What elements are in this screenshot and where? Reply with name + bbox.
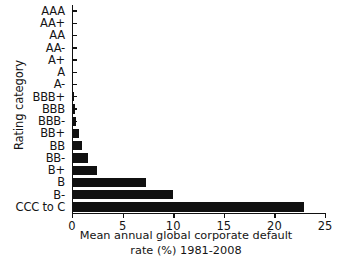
bar [73,166,97,175]
bar-row: CCC to C [72,201,325,213]
bar-row: B+ [72,164,325,176]
x-axis-line [72,213,325,214]
bar-row: A+ [72,54,325,66]
bar-row: AA+ [72,17,325,29]
y-tick-mark [72,47,77,48]
y-tick-mark [72,84,77,85]
bar-row: AAA [72,5,325,17]
plot-area: AAAAA+AAAA-A+AA-BBB+BBBBBB-BB+BBBB-B+BB-… [72,5,325,213]
bar [73,141,82,150]
y-tick-label: CCC to C [0,201,72,213]
y-tick-mark [72,72,77,73]
bar [73,153,88,162]
bar-row: AA- [72,42,325,54]
bar-row: A [72,66,325,78]
y-tick-label: BB+ [0,127,72,139]
x-tick-mark [325,213,326,218]
x-axis-title-line2: rate (%) 1981-2008 [46,244,326,259]
x-tick-mark [173,213,174,218]
x-tick-mark [72,213,73,218]
y-tick-label: AA [0,29,72,41]
x-tick-mark [274,213,275,218]
y-tick-label: A- [0,78,72,90]
bar-row: BB- [72,152,325,164]
y-tick-mark [72,59,77,60]
x-tick-mark [123,213,124,218]
bar [73,129,79,138]
bar-row: BB+ [72,127,325,139]
chart-figure: Rating category AAAAA+AAAA-A+AA-BBB+BBBB… [0,0,342,265]
bar [73,202,304,211]
bar-row: B [72,176,325,188]
bar [73,178,146,187]
bar-row: A- [72,78,325,90]
bar [73,190,173,199]
bar-row: BB [72,140,325,152]
x-tick-mark [224,213,225,218]
bar [73,104,75,113]
bar [73,117,76,126]
y-tick-label: B- [0,189,72,201]
y-tick-label: BB [0,140,72,152]
y-tick-mark [72,23,77,24]
x-axis-title: Mean annual global corporate default rat… [46,229,326,258]
y-tick-mark [72,10,77,11]
x-axis-title-line1: Mean annual global corporate default [80,229,293,242]
bar [73,92,74,101]
y-tick-mark [72,35,77,36]
y-tick-label: B [0,176,72,188]
bar-row: BBB- [72,115,325,127]
bar-row: B- [72,189,325,201]
bar-row: BBB+ [72,91,325,103]
bar-row: BBB [72,103,325,115]
bar-row: AA [72,29,325,41]
